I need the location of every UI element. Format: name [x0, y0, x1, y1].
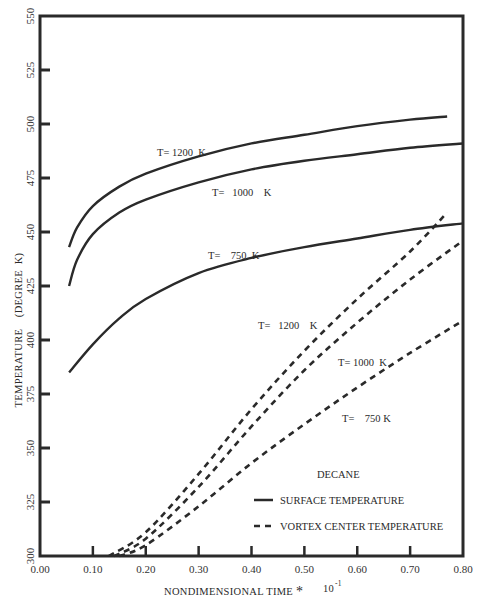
- series-line: [69, 116, 447, 247]
- plot-frame: [40, 16, 463, 556]
- y-tick-label: 500: [24, 115, 36, 132]
- legend-title: DECANE: [317, 469, 360, 480]
- y-tick-label: 375: [24, 385, 36, 402]
- x-axis-exponent-power: -1: [335, 579, 342, 588]
- y-tick-label: 425: [24, 277, 36, 294]
- legend: DECANE SURFACE TEMPERATURE VORTEX CENTER…: [254, 469, 443, 532]
- y-axis-title: TEMPERATURE (DEGREE K): [13, 252, 25, 407]
- y-tick-label: 550: [24, 7, 36, 24]
- x-tick-label: 0.50: [295, 563, 315, 575]
- series-line: [69, 143, 463, 286]
- legend-vortex-label: VORTEX CENTER TEMPERATURE: [280, 521, 443, 532]
- x-tick-label: 0.00: [30, 563, 50, 575]
- x-tick-label: 0.40: [242, 563, 262, 575]
- label-vortex-1200: T= 1200 K: [258, 320, 318, 331]
- label-vortex-750: T= 750 K: [342, 413, 391, 424]
- label-surface-750: T= 750 K: [208, 250, 260, 261]
- x-tick-label: 0.80: [453, 563, 473, 575]
- series-layer: [69, 116, 463, 556]
- y-axis-ticks: 300325350375400425450475500525550: [24, 7, 50, 564]
- y-tick-label: 450: [24, 223, 36, 240]
- x-tick-label: 0.10: [83, 563, 103, 575]
- x-tick-label: 0.60: [348, 563, 368, 575]
- y-tick-label: 300: [24, 547, 36, 564]
- x-tick-label: 0.30: [189, 563, 209, 575]
- series-line: [69, 223, 463, 372]
- x-axis-ticks: 0.000.100.200.300.400.500.600.700.80: [30, 546, 473, 575]
- x-tick-label: 0.70: [401, 563, 421, 575]
- temperature-chart: 300325350375400425450475500525550 0.000.…: [0, 0, 477, 600]
- label-surface-1000: T= 1000 K: [212, 187, 272, 198]
- label-vortex-1000: T= 1000 K: [338, 357, 387, 368]
- x-axis-title: NONDIMENSIONAL TIME: [164, 586, 293, 597]
- legend-surface-label: SURFACE TEMPERATURE: [280, 495, 404, 506]
- y-tick-label: 325: [24, 493, 36, 510]
- x-tick-label: 0.20: [136, 563, 156, 575]
- x-axis-multiplier: *: [296, 584, 303, 599]
- y-tick-label: 525: [24, 61, 36, 78]
- x-axis-exponent-base: 10: [323, 583, 334, 594]
- y-tick-label: 475: [24, 169, 36, 186]
- label-surface-1200: T= 1200 K: [157, 147, 206, 158]
- y-tick-label: 350: [24, 439, 36, 456]
- y-tick-label: 400: [24, 331, 36, 348]
